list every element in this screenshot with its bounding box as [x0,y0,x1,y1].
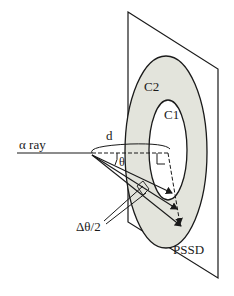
theta-arc [115,153,117,165]
alpha-ray-label: α ray [19,137,46,152]
theta-label: θ [119,155,125,169]
distance-label: d [106,128,113,143]
delta-theta-label: Δθ/2 [76,219,101,234]
pssd-label: PSSD [173,242,204,257]
pssd-geometry-diagram: α ray d θ Δθ/2 C2 C1 PSSD [0,0,234,296]
c2-label: C2 [144,79,159,94]
c1-label: C1 [164,107,179,122]
